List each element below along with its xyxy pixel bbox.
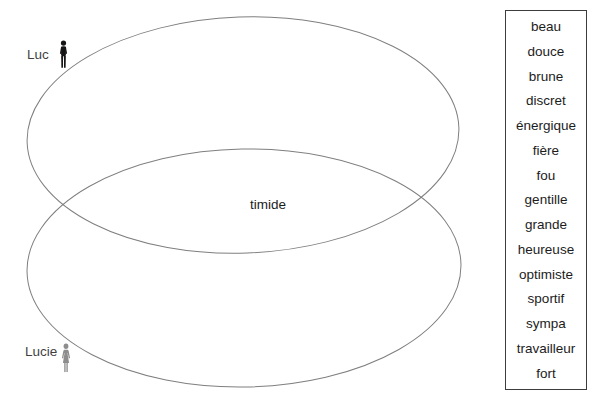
word-bank-item[interactable]: fière <box>508 144 584 158</box>
word-bank-item[interactable]: brune <box>508 70 584 84</box>
man-icon <box>56 40 71 69</box>
word-bank-item[interactable]: discret <box>508 94 584 108</box>
lucie-set-ellipse[interactable] <box>25 145 463 391</box>
luc-set-ellipse[interactable] <box>23 10 463 261</box>
word-bank-item[interactable]: heureuse <box>508 243 584 257</box>
word-bank-item[interactable]: douce <box>508 45 584 59</box>
word-bank-item[interactable]: sympa <box>508 317 584 331</box>
woman-icon <box>59 343 73 374</box>
word-bank-list: beaudoucebrunediscreténergiquefièrefouge… <box>506 11 586 389</box>
set-a-label: Luc <box>27 47 49 62</box>
word-bank-item[interactable]: beau <box>508 20 584 34</box>
word-bank-item[interactable]: sportif <box>508 292 584 306</box>
word-bank-item[interactable]: énergique <box>508 119 584 133</box>
word-bank-item[interactable]: optimiste <box>508 268 584 282</box>
word-bank-item[interactable]: fort <box>508 367 584 381</box>
set-b-label: Lucie <box>25 344 57 359</box>
word-bank-item[interactable]: grande <box>508 218 584 232</box>
word-bank-item[interactable]: gentille <box>508 193 584 207</box>
word-bank-box: beaudoucebrunediscreténergiquefièrefouge… <box>505 10 587 390</box>
intersection-word[interactable]: timide <box>228 197 308 212</box>
word-bank-item[interactable]: travailleur <box>508 342 584 356</box>
word-bank-item[interactable]: fou <box>508 169 584 183</box>
venn-worksheet: Luc Lucie timide beaudoucebrunediscretén… <box>0 0 594 403</box>
